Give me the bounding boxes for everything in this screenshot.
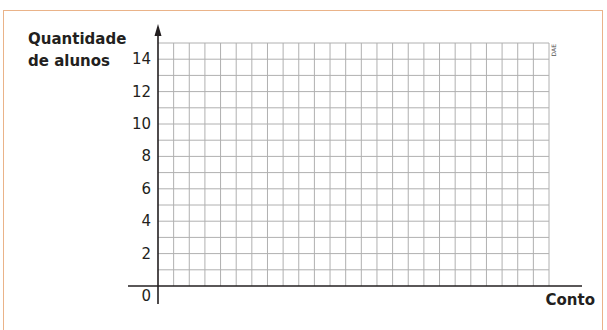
y-tick-label: 8 <box>121 147 151 165</box>
x-axis-label: Conto <box>546 291 595 309</box>
y-tick-label: 2 <box>121 245 151 263</box>
y-tick-label: 4 <box>121 212 151 230</box>
y-tick-label: 10 <box>121 115 151 133</box>
y-tick-label: 14 <box>121 50 151 68</box>
y-tick-label: 6 <box>121 180 151 198</box>
y-tick-label: 12 <box>121 83 151 101</box>
y-tick-label: 0 <box>121 287 151 305</box>
credit-label: DAE <box>550 44 557 56</box>
y-axis-arrow-icon <box>155 24 162 36</box>
